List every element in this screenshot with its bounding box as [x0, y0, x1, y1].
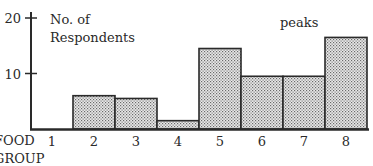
x-tick-label: 7: [300, 134, 308, 149]
x-tick-label: 3: [132, 134, 140, 149]
peaks-annotation: peaks: [280, 15, 318, 30]
x-tick-label: 5: [216, 134, 224, 149]
y-tick-label: 20: [4, 11, 21, 26]
y-ticks: 1020: [4, 11, 37, 82]
x-tick-label: 1: [48, 134, 56, 149]
x-tick-label: 6: [258, 134, 266, 149]
bar-group-5: [199, 49, 241, 129]
bar-group-4: [157, 121, 199, 129]
bars-group: [73, 37, 367, 129]
y-axis-label-line1: No. of: [50, 12, 91, 27]
y-axis-label-line2: Respondents: [50, 30, 135, 45]
bar-group-8: [325, 37, 367, 129]
bar-group-3: [115, 98, 157, 129]
bar-group-7: [283, 76, 325, 129]
x-axis-label-line1: FOOD: [0, 133, 35, 148]
bar-chart: 1020 12345678 No. of Respondents peaks F…: [0, 0, 373, 166]
x-tick-label: 8: [342, 134, 350, 149]
x-tick-labels: 12345678: [48, 134, 350, 149]
x-axis-label-line2: GROUP: [0, 151, 45, 166]
x-tick-label: 4: [174, 134, 182, 149]
bar-group-2: [73, 96, 115, 129]
bar-group-6: [241, 76, 283, 129]
x-tick-label: 2: [90, 134, 98, 149]
y-tick-label: 10: [4, 67, 21, 82]
